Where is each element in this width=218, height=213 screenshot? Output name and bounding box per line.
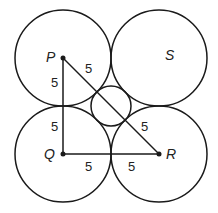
point-r-dot (157, 152, 162, 157)
label-pr-upper: 5 (85, 61, 92, 76)
label-s: S (165, 47, 175, 63)
label-q: Q (44, 146, 55, 162)
label-r: R (166, 146, 176, 162)
geometry-diagram: P S Q R 5 5 5 5 5 5 (0, 0, 218, 213)
label-pq-lower: 5 (51, 119, 58, 134)
label-pr-lower: 5 (141, 119, 148, 134)
point-q-dot (61, 152, 66, 157)
label-pq-upper: 5 (51, 75, 58, 90)
label-qr-right: 5 (128, 159, 135, 174)
label-p: P (46, 49, 56, 65)
point-p-dot (61, 56, 66, 61)
label-qr-left: 5 (85, 159, 92, 174)
segment-pr (63, 58, 159, 154)
